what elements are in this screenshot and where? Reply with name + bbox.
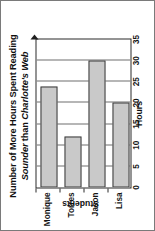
plot-area: [36, 38, 132, 188]
bar-monique: [40, 86, 57, 187]
category-label-monique: Monique: [43, 192, 52, 226]
gridline: [37, 59, 131, 60]
bar-jason: [88, 60, 105, 187]
chart-title: Number of More Hours Spent Reading Sound…: [8, 13, 31, 218]
gridline: [37, 38, 131, 39]
page-frame: Number of More Hours Spent Reading Sound…: [0, 0, 155, 231]
chart-title-book-charlottes-web: Charlotte's Web: [19, 51, 29, 119]
bar-chart-figure: Number of More Hours Spent Reading Sound…: [8, 13, 148, 218]
chart-title-connector: than: [19, 119, 29, 143]
value-axis-title: Hours: [134, 38, 144, 188]
chart-title-line-1: Number of More Hours Spent Reading: [8, 34, 18, 197]
bar-torres: [64, 136, 81, 187]
category-axis-title: Students: [33, 198, 129, 208]
gridline: [37, 80, 131, 81]
bar-lisa: [112, 102, 129, 187]
plot-wrapper: [36, 38, 132, 188]
chart-title-book-sounder: Sounder: [19, 143, 29, 180]
rotated-figure-container: Number of More Hours Spent Reading Sound…: [8, 13, 148, 218]
value-axis-arrow-icon: [31, 34, 39, 39]
